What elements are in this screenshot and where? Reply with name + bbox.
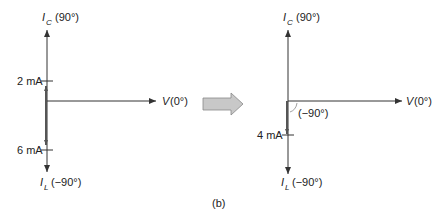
transition-arrow-icon: [203, 93, 243, 115]
svg-text:I: I: [281, 176, 284, 188]
svg-text:I: I: [283, 11, 286, 23]
right-ic-label: I C (90°): [283, 11, 320, 27]
left-phasor-diagram: 2 mA 6 mA I C (90°) I L (−90°) V (0°): [17, 11, 188, 192]
left-v-label: V (0°): [162, 95, 188, 107]
svg-text:(0°): (0°): [170, 95, 188, 107]
svg-text:L: L: [285, 183, 289, 192]
right-il-label: I L (−90°): [281, 176, 322, 192]
svg-text:I: I: [40, 176, 43, 188]
svg-text:(90°): (90°): [296, 11, 320, 23]
right-angle-label: (−90°): [298, 107, 328, 119]
svg-text:I: I: [42, 11, 45, 23]
svg-text:L: L: [44, 183, 48, 192]
phasor-diagram: 2 mA 6 mA I C (90°) I L (−90°) V (0°) (−…: [0, 0, 440, 223]
right-angle-arc: [290, 103, 297, 112]
left-il-label: I L (−90°): [40, 176, 81, 192]
svg-text:(−90°): (−90°): [292, 176, 322, 188]
svg-text:(−90°): (−90°): [51, 176, 81, 188]
right-v-label: V (0°): [406, 95, 432, 107]
left-tick-label-2ma: 2 mA: [17, 75, 43, 87]
svg-text:C: C: [287, 18, 293, 27]
left-ic-label: I C (90°): [42, 11, 79, 27]
svg-text:C: C: [46, 18, 52, 27]
svg-text:(90°): (90°): [55, 11, 79, 23]
figure-caption: (b): [212, 197, 225, 209]
right-phasor-diagram: (−90°) 4 mA I C (90°) I L (−90°) V (0°): [257, 11, 432, 192]
left-tick-label-6ma: 6 mA: [17, 144, 43, 156]
svg-text:(0°): (0°): [414, 95, 432, 107]
right-tick-label-4ma: 4 mA: [257, 129, 283, 141]
